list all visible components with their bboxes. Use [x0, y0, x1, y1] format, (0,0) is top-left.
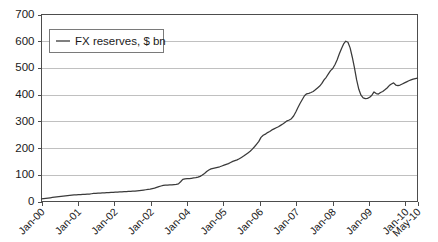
y-tick-label: 0	[28, 195, 34, 207]
fx-reserves-chart: 0100200300400500600700 Jan-00Jan-01Jan-0…	[0, 0, 438, 242]
x-axis-tick-labels: Jan-00Jan-01Jan-02Jan-02Jan-04Jan-05Jan-…	[16, 205, 423, 238]
chart-canvas: 0100200300400500600700 Jan-00Jan-01Jan-0…	[0, 0, 438, 242]
y-tick-label: 400	[15, 88, 34, 100]
chart-legend: FX reserves, $ bn	[50, 30, 166, 53]
y-tick-label: 600	[15, 35, 34, 47]
x-tick-label: Jan-01	[52, 205, 83, 236]
x-tick-label: Jan-00	[16, 205, 47, 236]
x-tick-label: Jan-07	[270, 205, 301, 236]
x-tick-label: Jan-05	[198, 205, 229, 236]
y-tick-label: 500	[15, 61, 34, 73]
y-tick-label: 100	[15, 168, 34, 180]
x-tick-label: Jan-02	[125, 205, 156, 236]
y-tick-label: 200	[15, 142, 34, 154]
y-tick-label: 700	[15, 8, 34, 20]
x-tick-label: Jan-08	[307, 205, 338, 236]
x-tick-label: Jan-04	[161, 205, 192, 236]
x-tick-label: Jan-02	[88, 205, 119, 236]
x-tick-label: Jan-09	[343, 205, 374, 236]
y-axis-tick-labels: 0100200300400500600700	[15, 8, 41, 207]
x-tickmarks	[43, 202, 419, 206]
y-tick-label: 300	[15, 115, 34, 127]
gridlines	[42, 42, 418, 176]
x-tick-label: Jan-06	[234, 205, 265, 236]
legend-label: FX reserves, $ bn	[75, 35, 166, 47]
